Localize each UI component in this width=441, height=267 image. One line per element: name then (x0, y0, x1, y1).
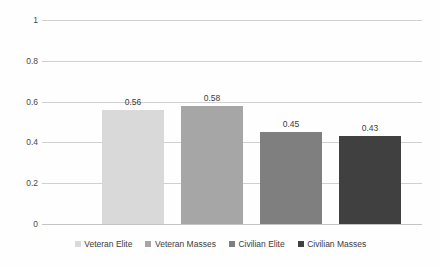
y-tick-label: 0.2 (4, 179, 38, 188)
y-tick-label: 0.8 (4, 57, 38, 66)
y-tick-label: 0.6 (4, 97, 38, 106)
legend-item-label: Civilian Masses (307, 240, 366, 249)
axis-baseline (42, 224, 422, 225)
bar-value-label: 0.43 (339, 124, 401, 133)
chart-legend: Veteran Elite Veteran Masses Civilian El… (0, 240, 441, 249)
y-tick-label: 0 (4, 220, 38, 229)
legend-item-label: Veteran Masses (155, 240, 216, 249)
bar-veteran-elite[interactable]: 0.56 (102, 110, 164, 224)
bar-value-label: 0.56 (102, 98, 164, 107)
legend-swatch-icon (229, 241, 235, 247)
bar-chart: 1 0.8 0.6 0.4 0.2 0 0.56 0.58 0.45 0.43 (0, 0, 441, 267)
bar-value-label: 0.58 (181, 94, 243, 103)
legend-item-civilian-elite[interactable]: Civilian Elite (229, 240, 285, 249)
y-tick-label: 1 (4, 16, 38, 25)
legend-swatch-icon (145, 241, 151, 247)
y-tick-label: 0.4 (4, 138, 38, 147)
legend-item-veteran-masses[interactable]: Veteran Masses (145, 240, 215, 249)
bar-veteran-masses[interactable]: 0.58 (181, 106, 243, 224)
y-axis: 1 0.8 0.6 0.4 0.2 0 (0, 20, 38, 224)
legend-item-civilian-masses[interactable]: Civilian Masses (298, 240, 367, 249)
legend-item-label: Civilian Elite (238, 240, 284, 249)
bar-civilian-masses[interactable]: 0.43 (339, 136, 401, 224)
legend-swatch-icon (298, 241, 304, 247)
legend-item-label: Veteran Elite (84, 240, 132, 249)
bar-value-label: 0.45 (260, 120, 322, 129)
bar-civilian-elite[interactable]: 0.45 (260, 132, 322, 224)
legend-swatch-icon (75, 241, 81, 247)
bars-layer: 0.56 0.58 0.45 0.43 (42, 20, 422, 224)
legend-item-veteran-elite[interactable]: Veteran Elite (75, 240, 133, 249)
